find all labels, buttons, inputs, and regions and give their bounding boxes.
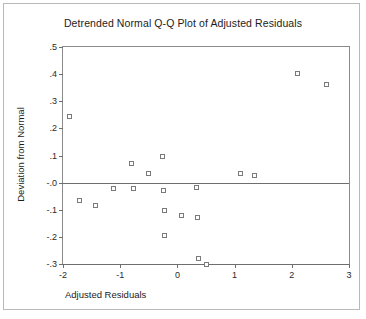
chart-title: Detrended Normal Q-Q Plot of Adjusted Re…: [0, 17, 366, 29]
data-point-marker: [162, 208, 167, 213]
data-point-marker: [204, 262, 209, 267]
y-axis-tick: [59, 128, 63, 129]
x-axis-tick: [63, 264, 64, 268]
x-axis-tick-label: 3: [346, 270, 351, 280]
plot-area: .5.4.3.2.1-.0-.1-.2-.3-2-10123: [62, 46, 350, 265]
y-axis-tick: [59, 101, 63, 102]
y-axis-tick-label: .4: [49, 69, 57, 79]
y-axis-tick: [59, 74, 63, 75]
data-point-marker: [146, 171, 151, 176]
data-point-marker: [162, 233, 167, 238]
y-axis-tick-label: .1: [49, 151, 57, 161]
x-axis-tick: [349, 264, 350, 268]
data-point-marker: [252, 173, 257, 178]
data-point-marker: [77, 198, 82, 203]
y-axis-tick-label: -.2: [46, 232, 57, 242]
data-point-marker: [129, 161, 134, 166]
x-axis-tick-label: 2: [289, 270, 294, 280]
x-axis-tick-label: 0: [175, 270, 180, 280]
data-point-marker: [179, 213, 184, 218]
x-axis-tick: [120, 264, 121, 268]
y-axis-tick-label: .2: [49, 123, 57, 133]
data-point-marker: [160, 154, 165, 159]
data-point-marker: [295, 71, 300, 76]
data-point-marker: [67, 114, 72, 119]
data-point-marker: [161, 188, 166, 193]
x-axis-tick: [292, 264, 293, 268]
data-point-marker: [196, 256, 201, 261]
data-point-marker: [194, 185, 199, 190]
x-axis-title: Adjusted Residuals: [62, 289, 348, 300]
y-axis-tick: [59, 156, 63, 157]
data-point-marker: [93, 203, 98, 208]
data-point-marker: [111, 186, 116, 191]
scatter-points-layer: [63, 47, 349, 264]
y-axis-tick: [59, 210, 63, 211]
y-axis-tick: [59, 237, 63, 238]
y-axis-tick-label: -.3: [46, 259, 57, 269]
x-axis-tick-label: -1: [116, 270, 124, 280]
y-axis-tick-label: -.1: [46, 205, 57, 215]
y-axis-tick-label: -.0: [46, 178, 57, 188]
y-axis-tick-label: .3: [49, 96, 57, 106]
y-axis-tick: [59, 183, 63, 184]
x-axis-tick-label: 1: [232, 270, 237, 280]
y-axis-tick: [59, 47, 63, 48]
data-point-marker: [195, 215, 200, 220]
chart-page: Detrended Normal Q-Q Plot of Adjusted Re…: [0, 0, 366, 319]
data-point-marker: [131, 186, 136, 191]
y-axis-title: Deviation from Normal: [14, 46, 28, 263]
data-point-marker: [324, 82, 329, 87]
y-axis-tick-label: .5: [49, 42, 57, 52]
x-axis-tick: [177, 264, 178, 268]
x-axis-tick: [235, 264, 236, 268]
x-axis-tick-label: -2: [59, 270, 67, 280]
data-point-marker: [238, 171, 243, 176]
